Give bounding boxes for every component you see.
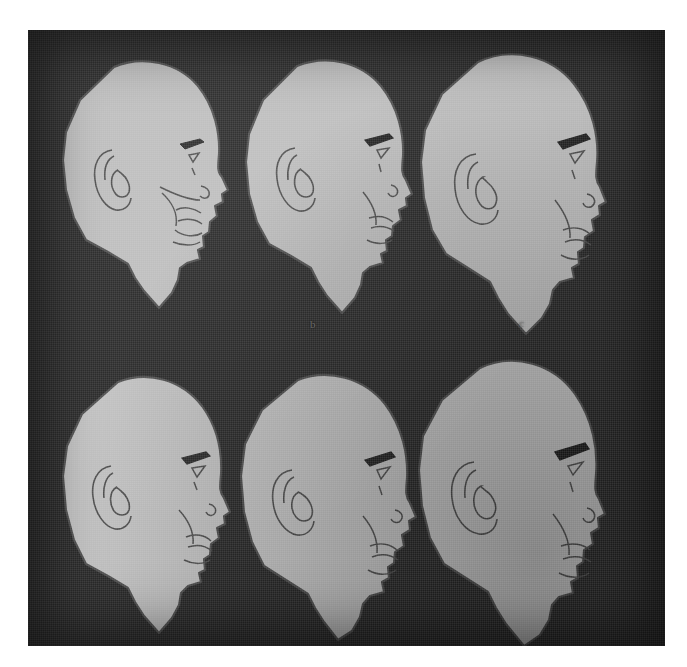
plate-canvas: b c: [28, 30, 665, 646]
figure-2-drawing: [233, 52, 423, 322]
head-outline-6: [419, 361, 605, 646]
caption-b: b: [310, 318, 316, 330]
head-outline-1: [63, 61, 228, 308]
figure-1-drawing: [52, 50, 242, 320]
figure-5-drawing: [228, 366, 428, 644]
figure-6-drawing: [402, 352, 616, 646]
figure-3-drawing: [406, 46, 616, 336]
figure-2-head-profile: [233, 52, 423, 322]
figure-4-head-profile: [52, 368, 242, 638]
figure-3-head-profile: [406, 46, 616, 336]
head-outline-3: [421, 54, 606, 334]
head-outline-5: [241, 375, 416, 640]
figure-6-head-profile: [402, 352, 616, 646]
head-outline-4: [63, 377, 230, 633]
figure-5-head-profile: [228, 366, 428, 644]
head-outline-2: [246, 60, 412, 313]
caption-c: c: [519, 317, 524, 329]
figure-4-drawing: [52, 368, 242, 638]
figure-1-head-profile: [52, 50, 242, 320]
